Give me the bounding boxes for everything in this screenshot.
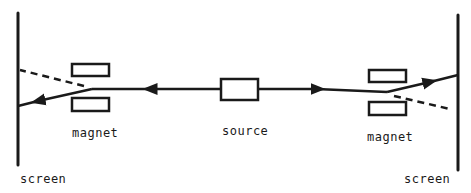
beam-right-straight-cont xyxy=(316,89,387,92)
beam-left-deflected-cont xyxy=(18,101,40,107)
magnet-left-top xyxy=(72,64,109,76)
beam-right-deflected xyxy=(387,82,430,92)
label-source: source xyxy=(222,124,268,138)
label-magnet-left: magnet xyxy=(72,126,118,140)
label-magnet-right: magnet xyxy=(367,130,413,144)
source-box xyxy=(221,79,258,100)
magnet-right-top xyxy=(369,70,406,82)
beam-left-dashed xyxy=(20,70,84,86)
magnet-right-bottom xyxy=(369,102,406,115)
magnet-left-bottom xyxy=(72,98,109,111)
label-screen-right: screen xyxy=(404,172,450,186)
label-screen-left: screen xyxy=(20,172,66,186)
beam-right-deflected-cont xyxy=(428,75,458,83)
beam-deflection-diagram xyxy=(0,0,471,193)
